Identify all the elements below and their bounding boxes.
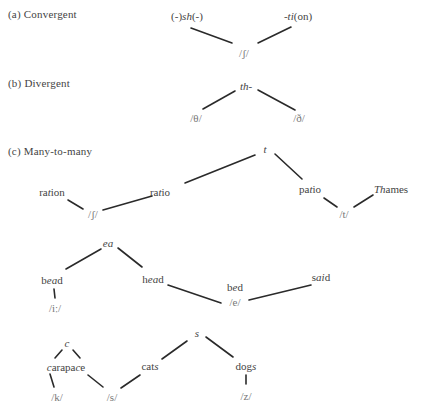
edge-ti-to-sh-phoneme bbox=[258, 27, 291, 43]
edge-ea-to-bead bbox=[66, 249, 101, 269]
node-text-italic: ea bbox=[47, 274, 57, 286]
edge-c-to-carapace-left bbox=[55, 350, 62, 358]
node-word-patio: patio bbox=[299, 183, 321, 195]
node-s-spelling: s bbox=[195, 327, 199, 339]
edge-carapace-to-k-phoneme bbox=[50, 374, 54, 387]
node-th-spelling: th- bbox=[240, 80, 252, 92]
node-phoneme-s: /s/ bbox=[107, 391, 117, 403]
node-phoneme-k: /k/ bbox=[51, 391, 63, 403]
edge-thames-to-t-phoneme bbox=[354, 195, 373, 207]
node-text-italic: Th bbox=[374, 183, 386, 195]
edge-t-to-ratio bbox=[185, 155, 255, 183]
node-text: d bbox=[158, 273, 164, 285]
node-phoneme-t: /t/ bbox=[339, 208, 348, 220]
node-text: dog bbox=[236, 360, 253, 372]
node-text: ames bbox=[386, 183, 409, 195]
edge-t-to-patio bbox=[275, 154, 302, 179]
edge-said-to-e-phoneme bbox=[249, 285, 311, 300]
node-phoneme-sh: /ʃ/ bbox=[239, 47, 249, 59]
node-text: d bbox=[237, 281, 243, 293]
edge-bead-to-i-phoneme bbox=[54, 289, 55, 298]
edge-th-to-eth bbox=[258, 90, 295, 110]
node-ea-spelling: ea bbox=[103, 237, 113, 249]
node-word-head: head bbox=[142, 273, 163, 285]
node-word-ratio: ratio bbox=[150, 186, 170, 198]
node-text: (-) bbox=[171, 10, 182, 22]
node-text: d bbox=[57, 274, 63, 286]
node-phoneme-theta: /θ/ bbox=[190, 112, 201, 124]
node-text-italic: s bbox=[252, 360, 256, 372]
node-sh-spelling: (-)sh(-) bbox=[171, 10, 203, 22]
node-phoneme-eth: /ð/ bbox=[293, 112, 305, 124]
node-word-dogs: dogs bbox=[236, 360, 257, 372]
node-text-italic: s bbox=[154, 360, 158, 372]
node-phoneme-sh-2: /ʃ/ bbox=[88, 208, 98, 220]
node-t-spelling: t bbox=[263, 143, 266, 155]
edge-s-to-cats bbox=[162, 341, 187, 359]
edge-th-to-theta bbox=[203, 91, 235, 109]
edge-sh-to-sh-phoneme bbox=[191, 28, 232, 43]
edge-ratio-to-sh2 bbox=[103, 196, 152, 210]
node-text: pa bbox=[299, 183, 309, 195]
edge-patio-to-t-phoneme bbox=[324, 198, 337, 207]
node-text-italic: ai bbox=[316, 271, 325, 283]
node-phoneme-long-i: /iː/ bbox=[49, 302, 61, 314]
section-label-many-to-many: (c) Many-to-many bbox=[8, 145, 92, 157]
edge-ration-to-sh2 bbox=[68, 200, 83, 209]
edge-cats-to-s-phoneme bbox=[121, 375, 140, 388]
node-text: ion bbox=[51, 186, 65, 198]
section-label-divergent: (b) Divergent bbox=[8, 77, 70, 89]
node-text: (on) bbox=[294, 10, 312, 22]
section-label-convergent: (a) Convergent bbox=[8, 8, 77, 20]
node-text: cat bbox=[141, 360, 154, 372]
node-text: d bbox=[325, 271, 331, 283]
node-text: ra bbox=[150, 186, 159, 198]
node-text: arapa bbox=[52, 361, 76, 373]
node-text-italic: sh bbox=[182, 10, 192, 22]
node-text: (-) bbox=[192, 10, 203, 22]
node-text-italic: ea bbox=[148, 273, 158, 285]
node-word-bead: bead bbox=[41, 274, 62, 286]
node-word-said: said bbox=[312, 271, 330, 283]
node-ti-spelling: -ti(on) bbox=[284, 10, 312, 22]
edge-layer bbox=[0, 0, 422, 416]
edge-s-to-dogs bbox=[206, 337, 233, 357]
node-word-carapace: carapace bbox=[47, 361, 85, 373]
node-text: e bbox=[80, 361, 85, 373]
node-phoneme-z: /z/ bbox=[241, 390, 252, 402]
node-text: ra bbox=[39, 186, 48, 198]
node-word-cats: cats bbox=[141, 360, 158, 372]
edge-carapace-to-s-phoneme bbox=[88, 375, 103, 387]
node-word-ration: ration bbox=[39, 186, 65, 198]
edge-head-to-e-phoneme bbox=[168, 285, 221, 303]
node-word-bed: bed bbox=[227, 281, 243, 293]
node-phoneme-e: /e/ bbox=[230, 296, 241, 308]
edge-c-to-carapace-right bbox=[73, 350, 80, 358]
node-text: io bbox=[162, 186, 171, 198]
node-word-thames: Thames bbox=[374, 183, 408, 195]
edge-ea-to-head bbox=[118, 248, 142, 267]
node-c-spelling: c bbox=[65, 337, 70, 349]
grapheme-phoneme-correspondence-diagram: (a) Convergent (b) Divergent (c) Many-to… bbox=[0, 0, 422, 416]
node-text: io bbox=[312, 183, 321, 195]
